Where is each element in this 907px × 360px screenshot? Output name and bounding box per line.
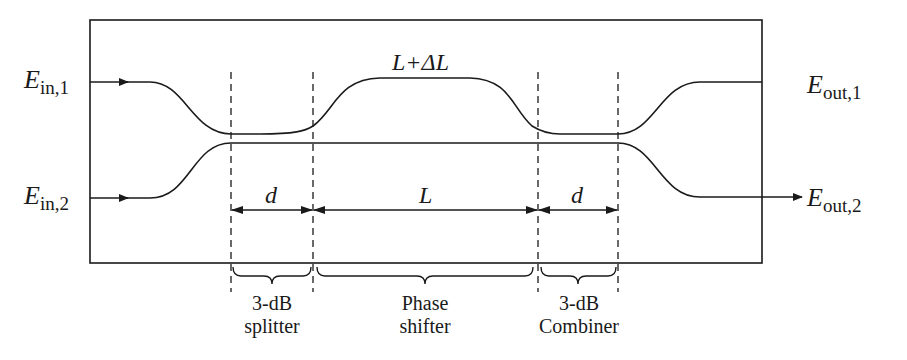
label-output-1-subscript: out,1 (823, 82, 862, 103)
caption-phase-shifter: Phase shifter (385, 292, 465, 338)
label-input-2: Ein,2 (24, 183, 69, 213)
brace-splitter (233, 267, 311, 284)
caption-combiner-line1: 3-dB (534, 292, 624, 315)
label-input-1-symbol: E (24, 65, 40, 94)
caption-phase-shifter-line1: Phase (385, 292, 465, 315)
brace-combiner (541, 267, 616, 284)
label-long-arm: L+ΔL (392, 50, 449, 74)
label-dim-combiner: d (571, 183, 583, 207)
caption-combiner-line2: Combiner (534, 315, 624, 338)
caption-phase-shifter-line2: shifter (385, 315, 465, 338)
label-output-2-subscript: out,2 (823, 195, 862, 216)
brace-phase-shifter (317, 267, 533, 284)
caption-splitter-line1: 3-dB (232, 292, 312, 315)
label-dim-splitter: d (265, 183, 277, 207)
label-output-1-symbol: E (807, 70, 823, 99)
caption-combiner: 3-dB Combiner (534, 292, 624, 338)
label-dim-phase-shifter: L (419, 183, 432, 207)
section-braces (233, 267, 616, 284)
upper-waveguide (126, 78, 762, 134)
label-input-2-symbol: E (24, 181, 40, 210)
label-output-1: Eout,1 (807, 72, 861, 102)
mzi-diagram: Ein,1 Ein,2 Eout,1 Eout,2 L+ΔL d L d 3-d… (0, 0, 907, 360)
lower-waveguide (126, 143, 762, 198)
label-input-1: Ein,1 (24, 67, 69, 97)
label-input-1-subscript: in,1 (40, 77, 69, 98)
label-output-2: Eout,2 (807, 185, 861, 215)
label-input-2-subscript: in,2 (40, 193, 69, 214)
caption-splitter-line2: splitter (232, 315, 312, 338)
label-output-2-symbol: E (807, 183, 823, 212)
caption-splitter: 3-dB splitter (232, 292, 312, 338)
